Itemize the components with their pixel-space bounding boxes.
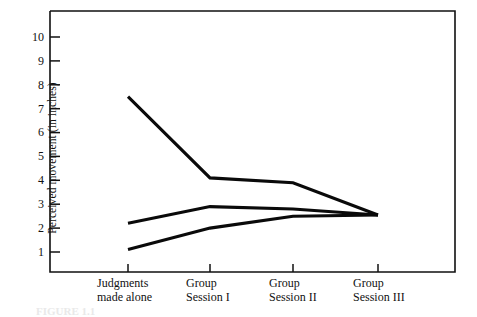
y-tick-label-4: 4: [26, 174, 44, 186]
y-axis-title: Perceived movement (in inches): [46, 43, 58, 273]
y-tick-label-6: 6: [26, 126, 44, 138]
y-tick-label-2: 2: [26, 222, 44, 234]
y-tick-label-5: 5: [26, 150, 44, 162]
y-tick-label-8: 8: [26, 79, 44, 91]
plot-frame: [50, 11, 455, 272]
x-tick-label-group-session-iii: Group Session III: [353, 277, 473, 304]
chart-canvas: [0, 0, 477, 317]
x-tick-label-line-2: Session III: [353, 291, 473, 305]
figure-container: Perceived movement (in inches) 10 9 8 7 …: [0, 0, 477, 317]
y-tick-label-7: 7: [26, 103, 44, 115]
y-tick-label-10: 10: [26, 31, 44, 43]
x-tick-label-line-1: Group: [353, 277, 473, 291]
series-line-1: [128, 97, 378, 215]
x-axis-ticks: [128, 264, 378, 272]
y-tick-label-1: 1: [26, 246, 44, 258]
series-line-3: [128, 215, 378, 250]
figure-caption-partial: FIGURE 1.1: [36, 305, 95, 317]
data-series-group: [128, 97, 378, 250]
y-tick-label-3: 3: [26, 198, 44, 210]
y-tick-label-9: 9: [26, 55, 44, 67]
